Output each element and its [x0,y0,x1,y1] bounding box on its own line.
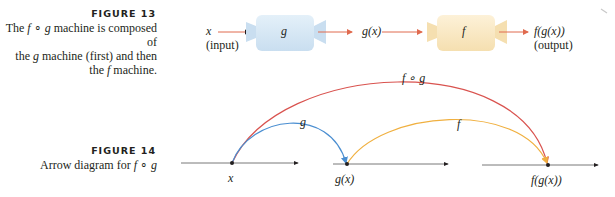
output-expr-label: f(g(x)) [534,24,565,39]
intermediate-label: g(x) [362,24,381,39]
artifact-mark [601,9,607,13]
composite-arc [232,82,547,163]
point-fgx [546,163,550,167]
arrow-diagram [181,82,598,167]
point-x [230,161,234,165]
point-gx-label: g(x) [335,172,354,187]
input-var-label: x [206,24,211,39]
output-text-label: (output) [534,38,573,53]
point-x-label: x [228,171,233,186]
f-arc [347,120,547,164]
point-fgx-label: f(g(x)) [531,173,562,188]
f-arc-label: f [457,117,460,132]
machine-f-label: f [462,24,465,39]
g-arc-label: g [300,115,306,130]
composite-arc-label: f ∘ g [402,71,425,86]
machine-g-label: g [281,24,287,39]
point-gx [345,162,349,166]
machine-f [427,15,507,51]
input-text-label: (input) [206,38,239,53]
diagram-canvas [0,0,615,197]
g-arc [232,123,346,163]
